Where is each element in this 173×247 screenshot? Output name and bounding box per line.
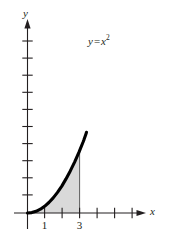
y-axis-arrow-icon: [24, 19, 30, 29]
equation-exponent: 2: [106, 33, 110, 42]
shaded-area-under-curve: [28, 151, 80, 213]
x-axis-label: x: [150, 206, 155, 217]
figure-canvas: y x 1 3 y=x2: [0, 0, 173, 247]
x-tick-label-1: 1: [39, 220, 50, 231]
equation-equals-sign: =: [93, 35, 101, 47]
curve-equation-annotation: y=x2: [88, 36, 110, 47]
x-axis-arrow-icon: [137, 210, 147, 216]
plot-area: [0, 0, 173, 247]
y-axis-label: y: [23, 8, 28, 19]
x-tick-label-3: 3: [74, 220, 85, 231]
